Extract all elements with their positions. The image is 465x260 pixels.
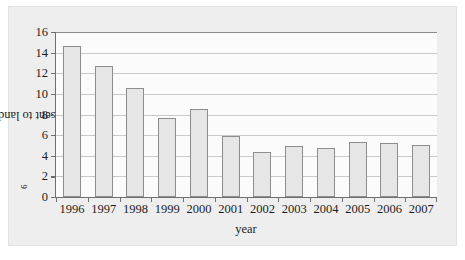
x-axis-tick (278, 197, 279, 202)
y-axis-tick (51, 176, 56, 177)
y-axis-tick-label: 0 (42, 191, 48, 204)
y-axis-tick-label: 16 (36, 26, 49, 39)
bar (222, 136, 240, 197)
x-axis-tick (247, 197, 248, 202)
x-axis-tick (151, 197, 152, 202)
x-axis-tick-label: 2003 (282, 203, 307, 216)
y-axis-tick-label: 8 (42, 108, 48, 121)
x-axis-tick (436, 197, 437, 202)
x-axis-tick-label: 1999 (155, 203, 180, 216)
y-axis-tick (51, 156, 56, 157)
x-axis-tick-label: 2001 (218, 203, 243, 216)
x-axis-tick (342, 197, 343, 202)
y-axis-title: waste sent to landfill/lbs × 106 (12, 32, 30, 198)
y-axis-tick (51, 94, 56, 95)
bar (349, 142, 367, 197)
y-axis-tick-label: 2 (42, 170, 48, 183)
bar (412, 145, 430, 197)
x-axis-tick-label: 2006 (377, 203, 402, 216)
y-axis-tick (51, 73, 56, 74)
x-axis-tick (310, 197, 311, 202)
y-axis-tick (51, 135, 56, 136)
x-axis-tick-label: 1997 (91, 203, 116, 216)
x-axis-tick (120, 197, 121, 202)
gridline (56, 94, 437, 95)
x-axis-tick-label: 2002 (250, 203, 275, 216)
bar (253, 152, 271, 197)
x-axis-tick-label: 1998 (123, 203, 148, 216)
x-axis-title: year (55, 222, 437, 237)
bar (63, 46, 81, 197)
gridline (56, 32, 437, 33)
gridline (56, 115, 437, 116)
y-axis-tick (51, 53, 56, 54)
x-axis-tick-label: 2004 (313, 203, 338, 216)
chart-figure: waste sent to landfill/lbs × 106 0246810… (0, 0, 465, 260)
x-axis-tick-label: 2007 (409, 203, 434, 216)
bar (126, 88, 144, 197)
y-axis-title-exponent: 6 (19, 185, 29, 189)
x-axis-tick (88, 197, 89, 202)
y-axis-tick (51, 32, 56, 33)
x-axis-tick (405, 197, 406, 202)
bar (95, 66, 113, 197)
y-axis-tick (51, 115, 56, 116)
gridline (56, 73, 437, 74)
y-axis-tick-label: 14 (36, 46, 49, 59)
x-axis-tick-label: 2000 (186, 203, 211, 216)
x-axis-tick-label: 2005 (345, 203, 370, 216)
bar-chart: waste sent to landfill/lbs × 106 0246810… (0, 0, 465, 260)
bar (317, 148, 335, 198)
bar (380, 143, 398, 197)
y-axis-tick-label: 12 (36, 67, 49, 80)
plot-area: 0246810121416199619971998199920002001200… (55, 32, 437, 198)
bar (285, 146, 303, 197)
gridline (56, 135, 437, 136)
x-axis-tick-label: 1996 (59, 203, 84, 216)
bar (190, 109, 208, 197)
x-axis-tick (215, 197, 216, 202)
y-axis-tick-label: 6 (42, 129, 48, 142)
x-axis-tick (374, 197, 375, 202)
y-axis-tick-label: 4 (42, 150, 48, 163)
x-axis-tick (56, 197, 57, 202)
y-axis-tick-label: 10 (36, 88, 49, 101)
bar (158, 118, 176, 197)
x-axis-tick (183, 197, 184, 202)
gridline (56, 53, 437, 54)
